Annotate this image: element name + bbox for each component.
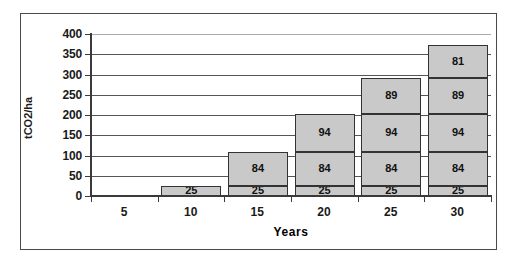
y-tick-label-50: 50 bbox=[69, 170, 82, 182]
bar-segment-25-s4[interactable]: 89 bbox=[361, 78, 421, 114]
bar-segment-30-s5[interactable]: 81 bbox=[428, 45, 488, 78]
bar-value-label: 81 bbox=[452, 56, 464, 67]
y-tick-label-250: 250 bbox=[63, 89, 82, 101]
stacked-bar-chart: 25 25 84 25 84 94 25 bbox=[0, 0, 517, 263]
y-tick-label-200: 200 bbox=[63, 109, 82, 121]
y-tick-label-150: 150 bbox=[63, 129, 82, 141]
bar-value-label: 84 bbox=[385, 163, 397, 174]
gridline-400 bbox=[91, 34, 491, 35]
bar-value-label: 84 bbox=[452, 163, 464, 174]
bar-segment-20-s2[interactable]: 84 bbox=[295, 152, 355, 186]
y-tick-mark-300 bbox=[85, 75, 91, 76]
bar-value-label: 89 bbox=[385, 90, 397, 101]
y-tick-mark-200 bbox=[85, 115, 91, 116]
bar-value-label: 89 bbox=[452, 90, 464, 101]
x-tick-mark-2 bbox=[224, 196, 225, 202]
bar-segment-30-s4[interactable]: 89 bbox=[428, 78, 488, 114]
bar-stack-30[interactable]: 25 84 94 89 81 bbox=[428, 45, 488, 196]
x-tick-mark-5 bbox=[424, 196, 425, 202]
y-tick-label-0: 0 bbox=[76, 190, 82, 202]
bar-segment-25-s2[interactable]: 84 bbox=[361, 152, 421, 186]
y-axis-tick-labels: 400 350 300 250 200 150 100 50 0 bbox=[42, 0, 82, 263]
bar-value-label: 94 bbox=[318, 127, 330, 138]
bar-segment-25-s3[interactable]: 94 bbox=[361, 114, 421, 152]
x-tick-label-10: 10 bbox=[158, 205, 224, 219]
y-tick-label-350: 350 bbox=[63, 48, 82, 60]
x-tick-mark-6 bbox=[491, 196, 492, 202]
y-tick-label-100: 100 bbox=[63, 150, 82, 162]
bar-stack-15[interactable]: 25 84 bbox=[228, 152, 288, 196]
bar-value-label: 84 bbox=[318, 163, 330, 174]
x-tick-mark-1 bbox=[158, 196, 159, 202]
bar-value-label: 84 bbox=[252, 163, 264, 174]
y-tick-mark-350 bbox=[85, 54, 91, 55]
plot-area: 25 25 84 25 84 94 25 bbox=[91, 34, 491, 196]
y-tick-mark-250 bbox=[85, 95, 91, 96]
x-tick-mark-4 bbox=[358, 196, 359, 202]
x-tick-label-5: 5 bbox=[91, 205, 157, 219]
x-axis-title: Years bbox=[91, 225, 491, 239]
bar-segment-15-s2[interactable]: 84 bbox=[228, 152, 288, 186]
bar-segment-30-s3[interactable]: 94 bbox=[428, 114, 488, 152]
bar-segment-20-s3[interactable]: 94 bbox=[295, 114, 355, 152]
bar-stack-20[interactable]: 25 84 94 bbox=[295, 114, 355, 196]
x-tick-mark-0 bbox=[91, 196, 92, 202]
bar-value-label: 94 bbox=[385, 127, 397, 138]
y-axis-title: tCO2/ha bbox=[22, 78, 38, 158]
bar-segment-30-s2[interactable]: 84 bbox=[428, 152, 488, 186]
y-tick-mark-400 bbox=[85, 34, 91, 35]
y-tick-mark-150 bbox=[85, 135, 91, 136]
bar-value-label: 94 bbox=[452, 127, 464, 138]
y-tick-mark-50 bbox=[85, 176, 91, 177]
x-tick-mark-3 bbox=[291, 196, 292, 202]
bar-stack-25[interactable]: 25 84 94 89 bbox=[361, 78, 421, 196]
y-tick-label-300: 300 bbox=[63, 69, 82, 81]
x-tick-label-30: 30 bbox=[424, 205, 490, 219]
x-tick-label-15: 15 bbox=[224, 205, 290, 219]
y-tick-mark-100 bbox=[85, 156, 91, 157]
x-tick-label-20: 20 bbox=[291, 205, 357, 219]
x-tick-label-25: 25 bbox=[358, 205, 424, 219]
y-tick-label-400: 400 bbox=[63, 28, 82, 40]
